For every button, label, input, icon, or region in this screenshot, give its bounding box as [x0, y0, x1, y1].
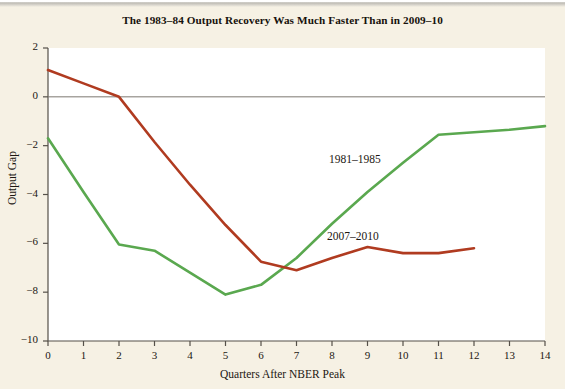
- x-tick-label: 4: [180, 349, 200, 361]
- chart-canvas: [0, 0, 565, 389]
- y-tick-label: −8: [6, 284, 38, 296]
- series-line-2007-2010: [48, 70, 474, 270]
- y-tick-label: 0: [6, 89, 38, 101]
- chart-figure: The 1983–84 Output Recovery Was Much Fas…: [0, 0, 565, 389]
- x-tick-label: 14: [535, 349, 555, 361]
- series-label-2007-2010: 2007–2010: [327, 230, 379, 242]
- x-tick-label: 2: [109, 349, 129, 361]
- y-tick-label: −10: [6, 333, 38, 345]
- x-tick-label: 5: [216, 349, 236, 361]
- x-tick-label: 1: [74, 349, 94, 361]
- y-tick-label: 2: [6, 40, 38, 52]
- axes: [43, 48, 545, 346]
- x-tick-label: 8: [322, 349, 342, 361]
- y-axis-title: Output Gap: [6, 118, 18, 238]
- data-series: [48, 70, 545, 295]
- x-axis-title: Quarters After NBER Peak: [0, 368, 565, 380]
- series-label-1981-1985: 1981–1985: [329, 153, 381, 165]
- x-tick-label: 3: [145, 349, 165, 361]
- x-tick-label: 10: [393, 349, 413, 361]
- x-tick-label: 12: [464, 349, 484, 361]
- x-tick-label: 6: [251, 349, 271, 361]
- x-tick-label: 11: [429, 349, 449, 361]
- x-tick-label: 7: [287, 349, 307, 361]
- x-tick-label: 0: [38, 349, 58, 361]
- x-tick-label: 13: [500, 349, 520, 361]
- x-tick-label: 9: [358, 349, 378, 361]
